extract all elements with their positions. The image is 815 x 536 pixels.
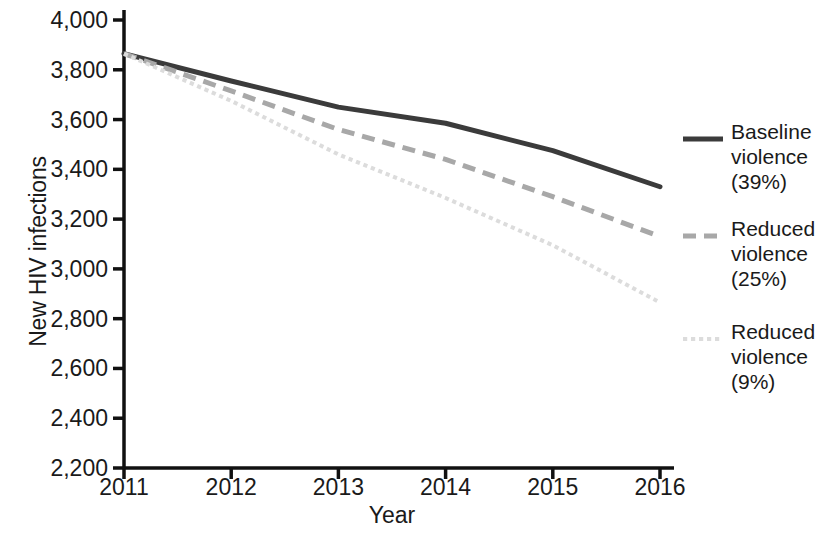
legend-swatch-dotted-icon xyxy=(683,328,723,334)
legend-label: Reduced violence (9%) xyxy=(731,319,809,394)
axis-tick-marks xyxy=(113,20,660,479)
series-line-3 xyxy=(124,54,660,303)
legend-swatch-dashed-icon xyxy=(683,225,723,231)
axis-lines xyxy=(124,10,674,468)
legend-swatch-solid-icon xyxy=(683,128,723,134)
series-line-2 xyxy=(124,54,660,237)
legend-label: Baseline violence (39%) xyxy=(731,119,809,194)
series-lines xyxy=(124,54,660,303)
legend-label: Reduced violence (25%) xyxy=(731,216,809,291)
series-line-1 xyxy=(124,54,660,187)
